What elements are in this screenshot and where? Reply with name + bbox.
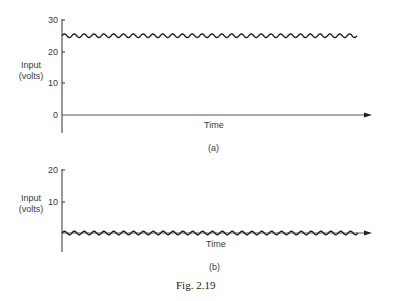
panel-a-ripple-wave — [62, 34, 357, 38]
panel-a-ytick-20: 20 — [38, 47, 58, 57]
panel-b-xlabel: Time — [206, 239, 226, 249]
panel-a-ytick-30: 30 — [38, 15, 58, 25]
panel-b-ytick-20: 20 — [38, 165, 58, 175]
panel-b-ylabel-line1: Input — [11, 193, 51, 203]
panel-b-caption: (b) — [209, 262, 220, 272]
panel-a-ylabel-line2: (volts) — [11, 71, 51, 81]
panel-a-ytick-0: 0 — [38, 110, 58, 120]
panel-a-caption: (a) — [208, 143, 219, 153]
panel-b-ylabel-line2: (volts) — [11, 204, 51, 214]
panel-a-ylabel-line1: Input — [11, 60, 51, 70]
panel-a-plot — [62, 19, 372, 133]
panel-a-xlabel: Time — [204, 120, 224, 130]
panel-b-ripple-wave — [62, 231, 358, 235]
panel-a-arrowhead — [364, 113, 372, 118]
panel-b-arrowhead — [364, 231, 372, 236]
figure-caption: Fig. 2.19 — [176, 280, 215, 290]
figure-canvas — [0, 0, 393, 301]
